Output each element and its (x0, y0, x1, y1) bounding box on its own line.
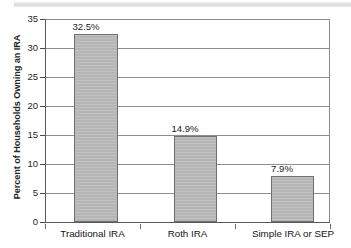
bar-roth-ira[interactable] (174, 136, 217, 222)
plot-area (45, 19, 330, 223)
bar-traditional-ira[interactable] (74, 34, 118, 222)
y-axis-tick-label: 0 (8, 217, 38, 227)
y-axis-tick-label: 25 (8, 72, 38, 82)
bar-value-label-simple-ira-or-sep: 7.9% (249, 163, 315, 174)
y-axis-tick-label: 20 (8, 101, 38, 111)
bar-value-label-roth-ira: 14.9% (152, 123, 218, 134)
y-axis-tick-label: 5 (8, 188, 38, 198)
y-axis-tick-label: 15 (8, 130, 38, 140)
bar-simple-ira-or-sep[interactable] (271, 176, 314, 222)
y-axis-tick-label: 35 (8, 14, 38, 24)
y-axis-tick-label: 30 (8, 43, 38, 53)
x-axis-label-simple-ira-or-sep: Simple IRA or SEP (235, 228, 351, 239)
bar-value-label-traditional-ira: 32.5% (53, 21, 119, 32)
y-axis-tick-label: 10 (8, 159, 38, 169)
x-axis-label-traditional-ira: Traditional IRA (45, 228, 140, 239)
bar-chart: Percent of Households Owning an IRA 35 3… (0, 0, 351, 248)
x-axis-label-roth-ira: Roth IRA (140, 228, 235, 239)
